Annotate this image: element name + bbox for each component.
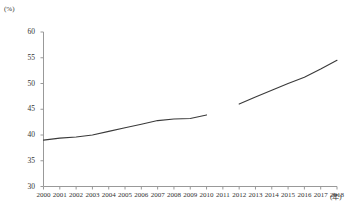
y-tick-label: 60 (13, 27, 35, 36)
x-tick-label: 2001 (53, 191, 67, 199)
x-tick-label: 2000 (37, 191, 51, 199)
x-tick-label: 2013 (248, 191, 262, 199)
chart-axes (44, 32, 338, 187)
line-chart-plot (0, 0, 354, 207)
data-line-segment-1 (44, 115, 207, 140)
x-tick-label: 2011 (216, 191, 230, 199)
x-tick-label: 2014 (265, 191, 279, 199)
x-tick-label: 2016 (297, 191, 311, 199)
x-tick-label: 2015 (281, 191, 295, 199)
x-tick-label: 2003 (85, 191, 99, 199)
x-tick-label: 2002 (69, 191, 83, 199)
x-tick-label: 2006 (134, 191, 148, 199)
y-tick-label: 55 (13, 53, 35, 62)
x-tick-label: 2017 (314, 191, 328, 199)
x-tick-label: 2012 (232, 191, 246, 199)
x-tick-label: 2005 (118, 191, 132, 199)
x-tick-label: 2009 (183, 191, 197, 199)
x-tick-label: 2004 (102, 191, 116, 199)
y-tick-label: 35 (13, 156, 35, 165)
data-series-group (44, 60, 338, 140)
x-tick-label: 2007 (151, 191, 165, 199)
x-tick-label: 2018 (330, 191, 344, 199)
y-tick-label: 30 (13, 182, 35, 191)
x-tick-label: 2010 (200, 191, 214, 199)
x-tick-label: 2008 (167, 191, 181, 199)
y-tick-label: 40 (13, 130, 35, 139)
chart-container: (%) (年) 30354045505560 20002001200220032… (0, 0, 354, 207)
data-line-segment-2 (239, 60, 337, 104)
y-tick-label: 45 (13, 104, 35, 113)
y-tick-label: 50 (13, 79, 35, 88)
